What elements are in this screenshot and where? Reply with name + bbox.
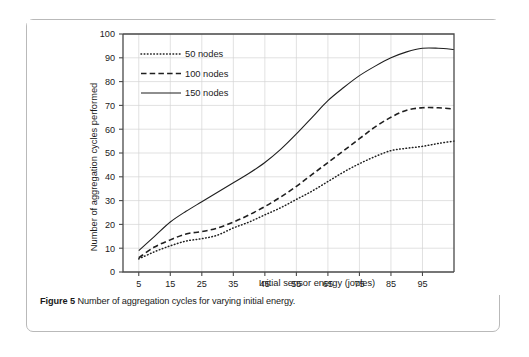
x-tick-label: 35 xyxy=(228,279,238,289)
x-tick-label: 85 xyxy=(386,279,396,289)
x-tick-label: 25 xyxy=(197,279,207,289)
figure-card: 0102030405060708090100515253545556575859… xyxy=(26,19,500,332)
x-tick-label: 15 xyxy=(165,279,175,289)
y-tick-label: 100 xyxy=(100,29,115,39)
y-tick-label: 70 xyxy=(105,101,115,111)
x-tick-label: 5 xyxy=(136,279,141,289)
legend-label-2: 100 nodes xyxy=(185,69,229,79)
figure-caption-label: Figure 5 xyxy=(40,296,75,306)
legend-label-3: 150 nodes xyxy=(185,88,229,98)
figure-caption: Figure 5 Number of aggregation cycles fo… xyxy=(40,296,490,306)
x-axis-title: Initial sensor energy (joules) xyxy=(259,278,375,288)
y-tick-label: 90 xyxy=(105,53,115,63)
y-tick-label: 20 xyxy=(105,220,115,230)
y-tick-label: 10 xyxy=(105,244,115,254)
y-tick-label: 0 xyxy=(110,267,115,277)
chart-plot-region: 0102030405060708090100515253545556575859… xyxy=(27,20,501,295)
y-tick-label: 50 xyxy=(105,148,115,158)
x-tick-label: 95 xyxy=(417,279,427,289)
y-tick-label: 40 xyxy=(105,172,115,182)
y-tick-label: 80 xyxy=(105,77,115,87)
y-axis-title: Number of aggregation cycles performed xyxy=(89,83,99,251)
figure-caption-text: Number of aggregation cycles for varying… xyxy=(77,296,295,306)
y-tick-label: 30 xyxy=(105,196,115,206)
legend-label-1: 50 nodes xyxy=(185,49,224,59)
y-tick-label: 60 xyxy=(105,125,115,135)
line-chart: 0102030405060708090100515253545556575859… xyxy=(27,20,501,295)
